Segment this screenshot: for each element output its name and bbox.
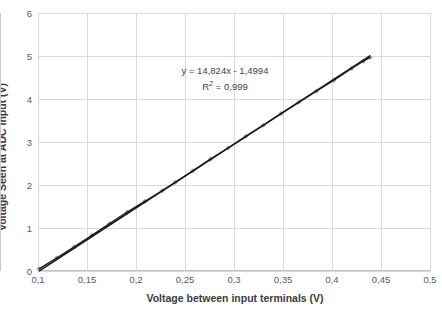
gridline-vertical xyxy=(430,13,431,271)
x-axis-title: Voltage between input terminals (V) xyxy=(38,292,432,304)
plot-area xyxy=(38,13,430,271)
r-value: = 0,999 xyxy=(213,81,248,92)
x-axis-tick-label: 0,15 xyxy=(67,274,107,285)
y-axis-title: Voltage Seen at ADC input (V) xyxy=(0,0,22,314)
x-axis-tick-label: 0,45 xyxy=(361,274,401,285)
x-axis-tick-label: 0,35 xyxy=(263,274,303,285)
x-axis-tick-label: 0,5 xyxy=(410,274,442,285)
trendline-equation-annotation: y = 14,824x - 1,4994 R2 = 0,999 xyxy=(160,64,290,93)
trendline-equation-text: y = 14,824x - 1,4994 xyxy=(160,64,290,77)
trendline-r-squared-text: R2 = 0,999 xyxy=(160,77,290,93)
x-axis-tick-label: 0,25 xyxy=(165,274,205,285)
x-axis-tick-label: 0,3 xyxy=(214,274,254,285)
x-axis-tick-label: 0,1 xyxy=(18,274,58,285)
chart-container: Voltage Seen at ADC input (V) 0123456 0,… xyxy=(0,0,442,314)
y-axis-line xyxy=(0,13,1,271)
x-axis-tick-label: 0,4 xyxy=(312,274,352,285)
gridline-horizontal xyxy=(38,271,430,272)
x-axis-tick-label: 0,2 xyxy=(116,274,156,285)
data-series-layer xyxy=(38,13,430,271)
